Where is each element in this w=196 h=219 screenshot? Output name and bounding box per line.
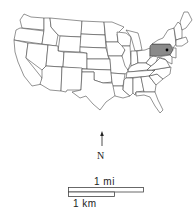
state-maine: [180, 12, 192, 30]
scale-label-kilometers: 1 km: [73, 198, 97, 209]
north-arrow-label: N: [97, 150, 104, 161]
state-south-dakota: [80, 34, 106, 48]
state-kansas: [87, 59, 111, 70]
state-arizona: [40, 66, 62, 91]
state-wyoming: [58, 36, 81, 52]
scale-bar-kilometers: [69, 192, 115, 197]
location-marker-dot: [166, 49, 169, 52]
state-outlines: [14, 12, 192, 113]
state-florida: [136, 92, 163, 113]
scale-bar-miles: [69, 188, 144, 193]
scale-bar: [69, 188, 144, 197]
state-pennsylvania-highlighted: [150, 44, 173, 56]
state-colorado: [63, 52, 87, 69]
state-north-dakota: [81, 21, 105, 35]
state-arkansas: [111, 73, 125, 86]
state-washington: [20, 14, 44, 30]
state-new-mexico: [61, 67, 82, 92]
scale-label-miles: 1 mi: [94, 176, 115, 187]
north-arrow: [100, 131, 104, 146]
